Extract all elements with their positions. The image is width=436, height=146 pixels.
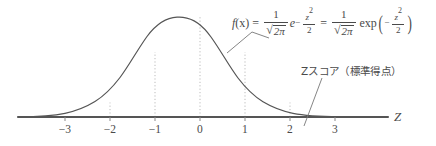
normal-distribution-figure: −3 −2 −1 0 1 2 3 Z Zスコア（標準得点） f(x) = 1 √… bbox=[0, 0, 436, 146]
formula-coefficient-1: 1 √2π bbox=[264, 9, 288, 37]
exponent-fraction-1: z2 2 bbox=[303, 10, 315, 35]
tick-label-z-3: 3 bbox=[320, 124, 350, 136]
sqrt-symbol-2: √ bbox=[334, 24, 341, 37]
sqrt-radicand-1: 2π bbox=[273, 25, 286, 37]
paren-open: ( bbox=[378, 14, 382, 32]
tick-label-z-1: 1 bbox=[230, 124, 260, 136]
tick-label-z-0: 0 bbox=[185, 124, 215, 136]
coefficient-numerator-1: 1 bbox=[271, 9, 281, 21]
zscore-annotation: Zスコア（標準得点） bbox=[301, 63, 401, 78]
z-axis-label: Z bbox=[394, 109, 401, 125]
sqrt-radicand-2: 2π bbox=[341, 25, 354, 37]
coefficient-denominator-1: √2π bbox=[264, 24, 288, 37]
tick-label-z-minus3: −3 bbox=[50, 124, 80, 136]
sqrt-symbol-1: √ bbox=[266, 24, 273, 37]
exponent-denominator-2: 2 bbox=[394, 26, 403, 35]
formula-exp-symbol: exp bbox=[360, 17, 377, 29]
formula-arg: (x) bbox=[235, 17, 249, 29]
zscore-leader-line bbox=[304, 78, 322, 126]
exponent-minus-2: − bbox=[384, 18, 389, 27]
pdf-formula: f(x) = 1 √2π e − z2 2 = 1 √2π exp bbox=[232, 9, 414, 37]
paren-close: ) bbox=[408, 14, 412, 32]
exponent-numerator-1: z2 bbox=[303, 10, 315, 22]
coefficient-denominator-2: √2π bbox=[332, 24, 356, 37]
tick-label-z-minus2: −2 bbox=[95, 124, 125, 136]
formula-equals-2: = bbox=[320, 17, 327, 29]
tick-label-z-2: 2 bbox=[275, 124, 305, 136]
exponent-power-2: 2 bbox=[398, 6, 402, 15]
exponent-fraction-2: z2 2 bbox=[392, 10, 404, 35]
formula-equals-1: = bbox=[252, 17, 259, 29]
formula-exponent-inline: − z2 2 bbox=[295, 10, 317, 35]
exponent-denominator-1: 2 bbox=[305, 26, 314, 35]
exponent-numerator-2: z2 bbox=[393, 10, 405, 22]
exponent-minus-1: − bbox=[295, 18, 300, 27]
coefficient-numerator-2: 1 bbox=[339, 9, 349, 21]
formula-exponent-paren: − z2 2 bbox=[384, 10, 406, 35]
exponent-power-1: 2 bbox=[309, 6, 313, 15]
tick-label-z-minus1: −1 bbox=[140, 124, 170, 136]
formula-coefficient-2: 1 √2π bbox=[332, 9, 356, 37]
